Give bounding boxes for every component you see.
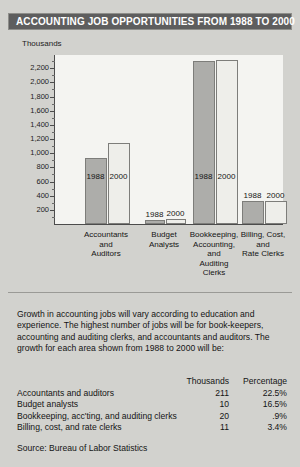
table-cell-name: Bookkeeping, acc'ting, and auditing cler… [17,411,177,423]
bar-2000-group-1: 2000 [108,143,130,224]
y-axis-tick-minor [52,203,55,204]
y-axis-tick-major [50,97,55,98]
x-axis-category-labels: AccountantsandAuditorsBudgetAnalystsBook… [54,230,283,288]
section-divider [8,292,292,293]
plot-area: 2004006008001,0001,2001,4001,6001,8002,0… [54,55,283,225]
description-paragraph: Growth in accounting jobs will vary acco… [17,309,285,355]
y-axis-tick-label: 1,600 [30,106,49,115]
table-header-row: Thousands Percentage [17,376,287,388]
table-cell-thousands: 10 [177,399,229,411]
y-axis-tick-minor [52,104,55,105]
y-axis-tick-major [50,82,55,83]
table-cell-name: Accountants and auditors [17,388,177,400]
y-axis-tick-minor [52,61,55,62]
y-axis-tick-minor [52,118,55,119]
table-row: Billing, cost, and rate clerks113.4% [17,422,287,434]
bar-1988-group-2: 1988 [145,220,165,224]
bar-2000-group-4: 2000 [265,201,287,224]
bar-value-label: 2000 [109,172,129,181]
table-cell-percentage: 16.5% [229,399,287,411]
table-cell-percentage: 22.5% [229,388,287,400]
category-label-4: Billing, Cost,andRate Clerks [232,230,294,259]
y-axis-tick-label: 1,400 [30,120,49,129]
bar-1988-group-1: 1988 [85,158,107,224]
table-cell-thousands: 211 [177,388,229,400]
y-axis-tick-label: 600 [36,177,49,186]
table-header-percentage: Percentage [229,376,287,388]
y-axis-tick-minor [52,75,55,76]
bar-chart: Thousands 2004006008001,0001,2001,4001,6… [8,34,292,289]
category-label-1: AccountantsandAuditors [77,230,135,259]
category-label-2: BudgetAnalysts [139,230,189,249]
y-axis-tick-minor [52,132,55,133]
y-axis-tick-major [50,139,55,140]
y-axis-tick-major [50,111,55,112]
bar-1988-group-4: 1988 [242,201,264,224]
y-axis-tick-minor [52,160,55,161]
table-cell-name: Billing, cost, and rate clerks [17,422,177,434]
table-row: Budget analysts1016.5% [17,399,287,411]
y-axis-tick-major [50,196,55,197]
bar-value-label: 2000 [167,209,185,218]
y-axis-tick-minor [52,217,55,218]
y-axis-tick-label: 2,000 [30,77,49,86]
bar-value-label: 1988 [86,172,106,181]
y-axis-tick-minor [52,89,55,90]
table-header-thousands: Thousands [177,376,229,388]
y-axis-tick-label: 200 [36,205,49,214]
bar-value-label: 1988 [146,210,164,219]
y-axis-tick-label: 1,200 [30,134,49,143]
y-axis-tick-label: 400 [36,191,49,200]
figure-title-bar: ACCOUNTING JOB OPPORTUNITIES FROM 1988 T… [8,13,292,30]
table-row: Accountants and auditors21122.5% [17,388,287,400]
table-cell-thousands: 11 [177,422,229,434]
bar-value-label: 2000 [217,172,237,181]
y-axis-tick-major [50,125,55,126]
table-row: Bookkeeping, acc'ting, and auditing cler… [17,411,287,423]
bar-value-label: 2000 [266,191,286,200]
y-axis-title: Thousands [22,39,62,48]
y-axis-tick-major [50,153,55,154]
table-cell-percentage: 3.4% [229,422,287,434]
y-axis-tick-label: 800 [36,162,49,171]
bar-2000-group-2: 2000 [166,219,186,224]
bar-value-label: 1988 [194,172,214,181]
y-axis-tick-label: 2,200 [30,63,49,72]
y-axis-tick-major [50,68,55,69]
y-axis-tick-label: 1,800 [30,92,49,101]
y-axis-tick-minor [52,174,55,175]
y-axis-tick-minor [52,189,55,190]
page-title: ACCOUNTING JOB OPPORTUNITIES FROM 1988 T… [9,16,295,27]
table-header-name [17,376,177,388]
table-cell-name: Budget analysts [17,399,177,411]
y-axis-tick-major [50,182,55,183]
bar-value-label: 1988 [243,191,263,200]
growth-table: Thousands Percentage Accountants and aud… [17,376,287,434]
y-axis-tick-major [50,210,55,211]
bar-1988-group-3: 1988 [193,61,215,224]
figure-container: ACCOUNTING JOB OPPORTUNITIES FROM 1988 T… [0,0,300,467]
y-axis-tick-label: 1,000 [30,148,49,157]
table-cell-thousands: 20 [177,411,229,423]
y-axis-tick-minor [52,146,55,147]
y-axis-tick-major [50,167,55,168]
bar-2000-group-3: 2000 [216,60,238,224]
source-note: Source: Bureau of Labor Statistics [17,443,147,453]
table-cell-percentage: .9% [229,411,287,423]
